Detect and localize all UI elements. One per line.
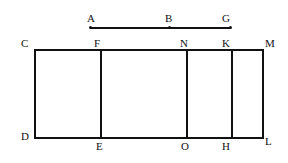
label-point-g: G: [222, 13, 230, 24]
label-point-h: H: [222, 141, 230, 152]
point-b-dot: [168, 26, 171, 29]
label-point-o: O: [181, 141, 189, 152]
rectangle-left-edge: [34, 49, 36, 139]
label-point-k: K: [222, 38, 230, 49]
label-vertex-l: L: [265, 136, 272, 147]
divider-no: [186, 49, 188, 139]
label-point-a: A: [87, 13, 95, 24]
label-point-f: F: [94, 38, 100, 49]
label-vertex-c: C: [21, 38, 28, 49]
rectangle-bottom-edge: [34, 137, 264, 139]
label-vertex-d: D: [21, 131, 29, 142]
label-vertex-m: M: [265, 38, 275, 49]
divider-fe: [100, 49, 102, 139]
segment-ag-line: [90, 27, 230, 29]
divider-kh: [231, 49, 233, 139]
point-a-dot: [89, 26, 92, 29]
rectangle-top-edge: [34, 49, 264, 51]
label-point-e: E: [96, 141, 103, 152]
label-point-b: B: [165, 13, 172, 24]
point-g-dot: [229, 26, 232, 29]
geometry-figure: A B G C M D L F E N O K H: [0, 0, 288, 163]
rectangle-right-edge: [262, 49, 264, 139]
label-point-n: N: [180, 38, 188, 49]
